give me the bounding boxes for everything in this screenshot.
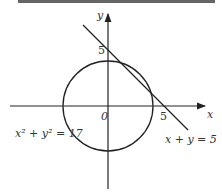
origin-label: 0 bbox=[101, 110, 108, 123]
coordinate-diagram: y x 0 5 5 x² + y² = 17 x + y = 5 bbox=[0, 0, 222, 196]
y-axis-label: y bbox=[96, 9, 104, 22]
y-tick-label: 5 bbox=[98, 44, 105, 57]
x-axis-label: x bbox=[207, 108, 214, 121]
tangent-line bbox=[83, 25, 188, 130]
x-tick-label: 5 bbox=[160, 110, 167, 123]
top-rule bbox=[18, 0, 215, 3]
circle-equation-label: x² + y² = 17 bbox=[15, 127, 83, 140]
line-equation-label: x + y = 5 bbox=[165, 133, 217, 146]
